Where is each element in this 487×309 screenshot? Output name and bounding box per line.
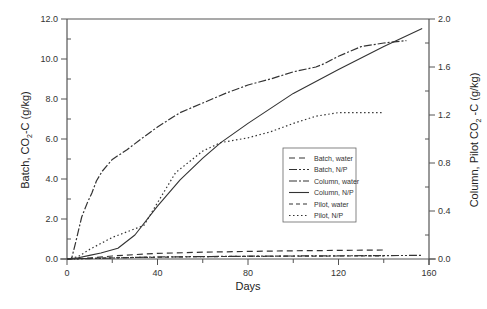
left-tick-label: 8.0 — [45, 94, 58, 104]
legend-label: Pilot, water — [314, 201, 349, 208]
chart: 04080120160 0.02.04.06.08.010.012.0 0.00… — [0, 0, 487, 309]
left-axis-title: Batch, CO2-C (g/kg) — [19, 91, 33, 188]
right-tick-label: 0.8 — [438, 158, 451, 168]
series-layer — [67, 29, 422, 259]
legend-label: Column, water — [314, 178, 360, 185]
left-tick-label: 0.0 — [45, 254, 58, 264]
x-tick-label: 80 — [243, 268, 253, 278]
x-axis-ticks: 04080120160 — [64, 259, 436, 278]
right-tick-label: 2.0 — [438, 14, 451, 24]
left-tick-label: 12.0 — [40, 14, 58, 24]
right-tick-label: 1.2 — [438, 110, 451, 120]
left-tick-label: 2.0 — [45, 214, 58, 224]
left-tick-label: 4.0 — [45, 174, 58, 184]
legend-label: Column, N/P — [314, 189, 354, 196]
left-axis-title-main: Batch, CO — [19, 138, 31, 189]
right-axis-title: Column, Pilot CO2 -C (g/kg) — [468, 73, 482, 208]
left-tick-label: 10.0 — [40, 54, 58, 64]
legend: Batch, waterBatch, N/PColumn, waterColum… — [283, 148, 360, 222]
x-tick-label: 40 — [152, 268, 162, 278]
x-tick-label: 120 — [331, 268, 346, 278]
legend-label: Batch, water — [314, 155, 354, 162]
x-axis-title: Days — [235, 280, 261, 292]
series-column-n-p — [67, 29, 422, 259]
left-axis-title-end: -C (g/kg) — [19, 91, 31, 134]
plot-frame — [60, 19, 436, 265]
x-tick-label: 160 — [421, 268, 436, 278]
right-tick-label: 0.4 — [438, 206, 451, 216]
left-tick-label: 6.0 — [45, 134, 58, 144]
legend-label: Pilot, N/P — [314, 212, 344, 219]
right-axis-title-main: Column, Pilot CO — [468, 122, 480, 207]
right-tick-label: 1.6 — [438, 62, 451, 72]
right-tick-label: 0.0 — [438, 254, 451, 264]
right-axis-title-end: -C (g/kg) — [468, 73, 480, 119]
x-tick-label: 0 — [64, 268, 69, 278]
legend-label: Batch, N/P — [314, 166, 348, 173]
